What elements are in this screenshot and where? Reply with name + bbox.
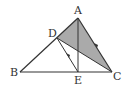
label-d: D	[48, 27, 57, 40]
shaded-triangle-adc	[57, 18, 112, 72]
label-e: E	[74, 74, 82, 86]
label-b: B	[10, 66, 18, 79]
geometry-diagram: A B C D E	[0, 0, 129, 86]
label-a: A	[73, 4, 83, 17]
label-c: C	[113, 70, 121, 83]
